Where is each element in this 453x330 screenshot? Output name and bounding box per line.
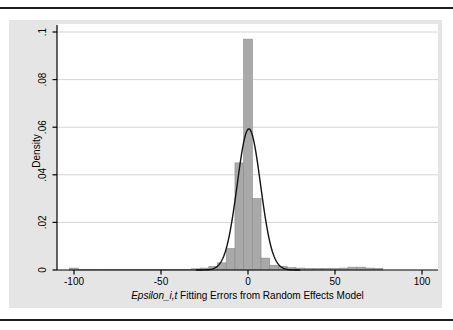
histogram-bar	[261, 258, 270, 270]
bottom-rule	[0, 319, 453, 321]
histogram-bar	[252, 199, 261, 270]
y-tick-label: .08	[37, 72, 48, 86]
y-axis-title: Density	[31, 134, 42, 167]
y-tick-label: .1	[37, 27, 48, 36]
y-tick-label: 0	[37, 267, 48, 273]
y-tick-label: .06	[37, 120, 48, 134]
x-tick-label: -100	[64, 276, 84, 287]
chart-area: -100-500501000.02.04.06.08.1 Density Eps…	[9, 20, 442, 308]
histogram-bar	[235, 163, 244, 270]
x-tick-label: 100	[414, 276, 431, 287]
y-tick-label: .02	[37, 215, 48, 229]
histogram-bar	[226, 249, 235, 270]
x-axis-title: Epsilon_i,t Fitting Errors from Random E…	[57, 290, 438, 301]
histogram-bar	[244, 39, 253, 270]
x-tick-label: 50	[329, 276, 341, 287]
histogram-plot: -100-500501000.02.04.06.08.1	[9, 20, 442, 308]
x-axis-title-text: Fitting Errors from Random Effects Model	[177, 290, 364, 301]
x-tick-label: -50	[154, 276, 169, 287]
y-tick-label: .04	[37, 167, 48, 181]
x-axis-title-variable: Epsilon_i,t	[131, 290, 177, 301]
histogram-bar	[270, 265, 279, 270]
x-tick-label: 0	[245, 276, 251, 287]
top-rule	[0, 7, 453, 9]
